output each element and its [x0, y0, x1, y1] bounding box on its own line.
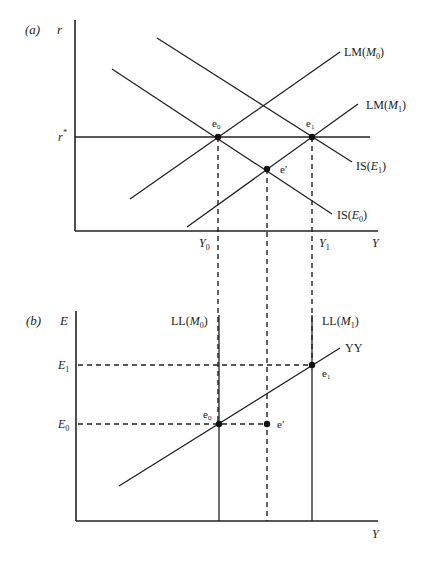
- point-a-e0-label: e0: [212, 117, 221, 131]
- point-b-e0-label: e0: [203, 408, 212, 422]
- ll-m0-label: LL(M0): [171, 314, 208, 330]
- panel-a-y-axis-label: r: [57, 22, 63, 37]
- is-e0-curve: [112, 69, 332, 214]
- panel-a-x-axis-label: Y: [372, 236, 380, 250]
- panel-b-tag: (b): [26, 313, 41, 328]
- tick-y0: Y0: [199, 236, 210, 252]
- point-a-eprime-label: e′: [280, 163, 287, 175]
- panel-b-y-axis-label: E: [59, 313, 68, 328]
- lm-m0-label: LM(M0): [344, 45, 384, 61]
- tick-e0: E0: [57, 417, 69, 433]
- panel-a-tag: (a): [25, 22, 40, 37]
- panel-b-x-axis-label: Y: [372, 527, 380, 541]
- point-a-e1-label: e1: [306, 117, 315, 131]
- yy-label: YY: [345, 341, 363, 355]
- point-b-eprime: [264, 421, 270, 427]
- point-a-eprime: [264, 166, 270, 172]
- panel-a: [75, 20, 378, 231]
- panel-b: [76, 311, 378, 521]
- point-a-e1: [309, 134, 315, 140]
- point-b-e0: [216, 421, 222, 427]
- point-b-e1: [309, 362, 315, 368]
- tick-y1: Y1: [319, 236, 330, 252]
- r-star-label: r*: [58, 128, 67, 144]
- tick-e1: E1: [57, 358, 69, 374]
- dashed-connectors: [78, 137, 312, 521]
- is-e1-label: IS(E1): [356, 159, 386, 175]
- yy-curve: [119, 348, 340, 486]
- point-a-e0: [215, 134, 221, 140]
- ll-m1-label: LL(M1): [322, 314, 359, 330]
- point-b-eprime-label: e′: [277, 418, 284, 430]
- point-b-e1-label: e1: [322, 367, 331, 381]
- is-lm-ll-yy-diagram: (a) r r* Y Y0 Y1 LM(M0) LM(M1) IS(E1) IS…: [0, 0, 424, 561]
- is-e1-curve: [157, 38, 352, 162]
- lm-m1-label: LM(M1): [366, 98, 406, 114]
- is-e0-label: IS(E0): [337, 208, 367, 224]
